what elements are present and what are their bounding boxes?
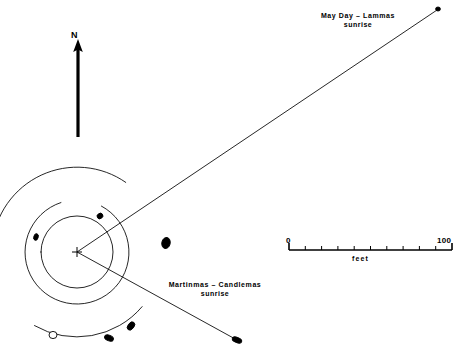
north-arrow <box>73 39 83 137</box>
alignment-label-may-day-lammas: May Day – Lammas sunrise <box>288 11 428 30</box>
survey-station-cross <box>72 247 82 257</box>
stone-sightline-end-se <box>231 336 242 345</box>
scale-bar-max-label: 100 <box>437 236 451 247</box>
alignment-label-martinmas-candlemas: Martinmas – Candlemas sunrise <box>142 280 288 299</box>
scale-bar-units-label: feet <box>352 254 369 263</box>
site-plan-canvas <box>0 0 464 352</box>
stone-rings <box>0 167 142 337</box>
stone-inner-ne <box>96 212 104 220</box>
scale-bar-min-label: 0 <box>286 236 290 247</box>
stone-mid-s <box>104 334 115 343</box>
alignment-label-line1: Martinmas – Candlemas <box>169 281 262 288</box>
stone-inner-w <box>33 233 39 241</box>
scale-bar <box>289 243 452 250</box>
alignment-label-line2: sunrise <box>288 20 428 29</box>
stone-outer-sw-open <box>49 331 57 338</box>
alignment-label-line2: sunrise <box>142 289 288 298</box>
stone-mid-e <box>161 237 172 250</box>
stone-mid-sse <box>126 321 136 332</box>
ring-outer-upper <box>0 167 126 245</box>
north-label: N <box>71 29 78 41</box>
alignment-label-line1: May Day – Lammas <box>321 12 395 19</box>
sightline-may-day-lammas <box>77 8 440 252</box>
stone-sightline-end-ne <box>436 7 441 11</box>
